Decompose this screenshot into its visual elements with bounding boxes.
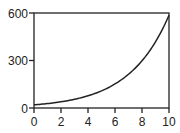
x-tick-label: 0 <box>31 115 38 129</box>
y-tick-label: 300 <box>8 54 28 68</box>
data-line <box>34 15 169 105</box>
y-axis-ticks: 0300600 <box>8 7 34 116</box>
y-tick-label: 0 <box>21 102 28 116</box>
x-tick-label: 2 <box>58 115 65 129</box>
x-tick-label: 8 <box>139 115 146 129</box>
chart: 0300600 0246810 <box>0 0 180 133</box>
x-tick-label: 10 <box>162 115 176 129</box>
x-tick-label: 4 <box>85 115 92 129</box>
y-tick-label: 600 <box>8 7 28 21</box>
plot-frame <box>34 13 169 108</box>
x-axis-ticks: 0246810 <box>31 108 176 129</box>
x-tick-label: 6 <box>112 115 119 129</box>
